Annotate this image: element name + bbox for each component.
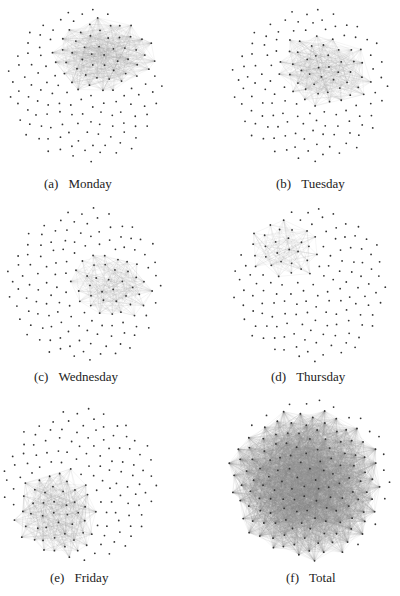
nodes bbox=[7, 207, 162, 361]
network-graph-total bbox=[228, 399, 390, 561]
caption-total: (f)Total bbox=[286, 570, 336, 586]
caption-label: (b) bbox=[276, 176, 291, 191]
caption-text: Friday bbox=[74, 570, 108, 585]
caption-label: (c) bbox=[34, 369, 48, 384]
caption-text: Thursday bbox=[296, 369, 345, 384]
caption-text: Wednesday bbox=[58, 369, 118, 384]
caption-tuesday: (b)Tuesday bbox=[276, 176, 345, 192]
caption-label: (d) bbox=[271, 369, 286, 384]
caption-label: (f) bbox=[286, 570, 299, 585]
edges bbox=[71, 255, 152, 315]
edges bbox=[253, 220, 317, 276]
caption-text: Total bbox=[309, 570, 336, 585]
caption-text: Monday bbox=[68, 176, 111, 191]
edges bbox=[279, 36, 371, 106]
network-graphs-canvas bbox=[0, 0, 400, 596]
caption-monday: (a)Monday bbox=[44, 176, 112, 192]
network-graph-wednesday bbox=[7, 207, 162, 361]
network-graph-friday bbox=[4, 408, 158, 561]
caption-wednesday: (c)Wednesday bbox=[34, 369, 118, 385]
edges bbox=[52, 18, 154, 90]
network-graph-tuesday bbox=[232, 9, 389, 162]
caption-thursday: (d)Thursday bbox=[271, 369, 345, 385]
caption-friday: (e)Friday bbox=[50, 570, 108, 586]
network-graph-thursday bbox=[233, 208, 386, 362]
caption-text: Tuesday bbox=[301, 176, 345, 191]
edges bbox=[14, 469, 95, 557]
nodes bbox=[232, 9, 389, 162]
caption-label: (e) bbox=[50, 570, 64, 585]
network-graph-monday bbox=[8, 9, 163, 163]
caption-label: (a) bbox=[44, 176, 58, 191]
nodes bbox=[233, 208, 386, 362]
